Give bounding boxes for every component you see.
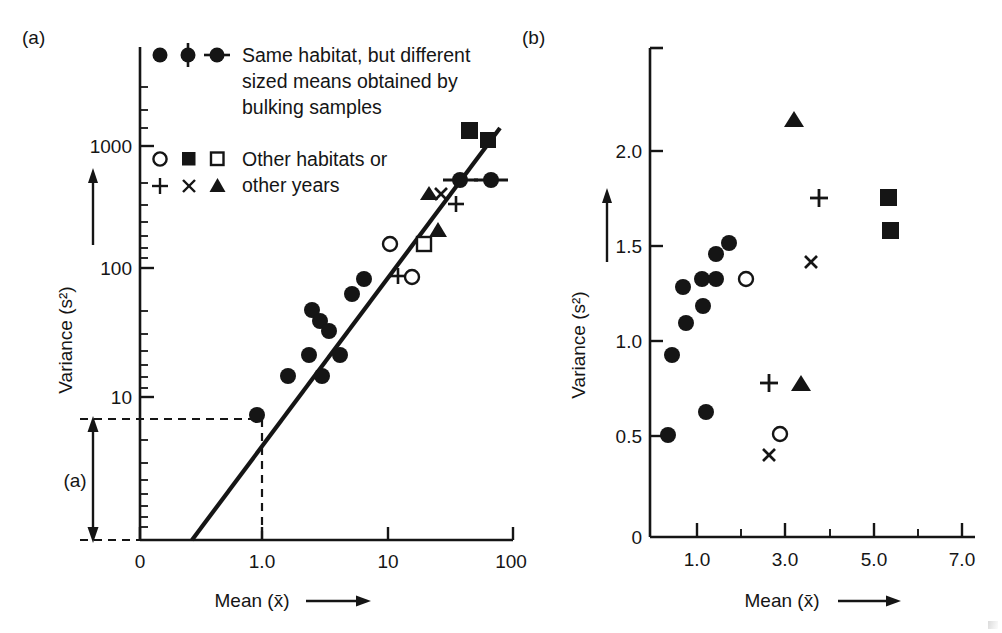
panel-a-y-axis-title: Variance (s²) — [55, 286, 76, 393]
data-point — [383, 237, 397, 251]
panel-b-points-open-circle — [739, 272, 787, 441]
legend-cross-icon — [183, 180, 195, 192]
data-point — [791, 375, 811, 391]
panel-a-xtick-100: 100 — [495, 551, 527, 572]
data-point — [321, 323, 337, 339]
panel-b-points-filled-triangle — [784, 111, 811, 391]
data-point — [344, 286, 360, 302]
panel-b-y-ticks — [650, 151, 663, 436]
figure-container: (a) — [0, 0, 1002, 633]
legend-entry-1-line-1: Same habitat, but different — [242, 44, 471, 66]
legend-plus-icon — [152, 178, 168, 194]
panel-a-regression-line — [192, 128, 500, 540]
data-point — [664, 347, 680, 363]
panel-a-ytick-100: 100 — [100, 258, 132, 279]
panel-a-x-axis-arrow-right-icon — [306, 596, 371, 607]
data-point — [773, 427, 787, 441]
panel-b-ytick-0: 0 — [631, 527, 642, 548]
legend-entry-1-line-3: bulking samples — [242, 96, 382, 118]
data-point — [721, 235, 737, 251]
legend-filled-circle-icon — [153, 48, 168, 63]
legend-open-square-icon — [211, 153, 224, 166]
data-point — [660, 427, 676, 443]
data-point — [417, 237, 431, 251]
data-point — [314, 368, 330, 384]
panel-a-y-axis-arrow-up-icon — [88, 168, 98, 245]
legend-entry-1-line-2: sized means obtained by — [242, 70, 458, 92]
panel-b-ytick-2: 2.0 — [616, 141, 642, 162]
panel-b-y-axis-arrow-up-icon — [602, 188, 612, 262]
panel-b-ytick-0-5: 0.5 — [616, 426, 642, 447]
panel-b-xtick-5: 5.0 — [861, 549, 887, 570]
data-point — [695, 298, 711, 314]
data-point — [760, 374, 778, 392]
data-point — [739, 272, 753, 286]
panel-b-points-filled-circle — [660, 235, 737, 443]
panel-b-xtick-7: 7.0 — [949, 549, 975, 570]
panel-a-points-filled-circle — [249, 172, 508, 423]
panel-b: (b) 2.0 1.5 1.0 0.5 0 — [522, 27, 975, 611]
panel-a-xtick-1: 1.0 — [249, 551, 275, 572]
data-point — [280, 368, 296, 384]
panel-b-label: (b) — [522, 27, 545, 48]
data-point — [763, 449, 775, 461]
data-point — [480, 132, 496, 148]
panel-b-x-axis-arrow-right-icon — [838, 596, 901, 607]
panel-a: (a) — [22, 27, 527, 611]
panel-a-xtick-10: 10 — [377, 551, 398, 572]
data-point — [249, 407, 265, 423]
data-point-horizontal-errorbar — [443, 172, 478, 188]
panel-a-intercept-label: (a) — [63, 470, 86, 491]
panel-b-points-plus — [760, 189, 828, 392]
data-point-horizontal-errorbar — [474, 172, 508, 188]
panel-a-label: (a) — [22, 27, 45, 48]
legend-open-circle-icon — [153, 152, 166, 165]
data-point — [301, 347, 317, 363]
panel-a-xtick-0: 0 — [135, 551, 146, 572]
panel-a-points-open-square — [417, 237, 431, 251]
panel-a-points-filled-square — [461, 122, 496, 148]
panel-b-ytick-1: 1.0 — [616, 331, 642, 352]
data-point — [882, 222, 899, 239]
data-point — [675, 279, 691, 295]
data-point — [448, 196, 464, 212]
panel-b-ytick-1-5: 1.5 — [616, 236, 642, 257]
scan-artifact — [988, 621, 998, 629]
data-point — [461, 122, 478, 139]
data-point — [784, 111, 804, 127]
legend-filled-circle-vertical-errorbar-icon — [181, 43, 196, 67]
figure-svg: (a) — [0, 0, 1002, 633]
legend-filled-triangle-icon — [210, 178, 226, 192]
data-point — [332, 347, 348, 363]
data-point — [810, 189, 828, 207]
data-point — [678, 315, 694, 331]
panel-b-xtick-1: 1.0 — [684, 549, 710, 570]
panel-b-points-filled-square — [880, 189, 899, 239]
data-point — [880, 189, 897, 206]
panel-b-points-cross — [763, 256, 817, 461]
legend-filled-square-icon — [182, 152, 196, 166]
panel-b-xtick-3: 3.0 — [772, 549, 798, 570]
data-point — [356, 271, 372, 287]
panel-b-x-axis-title: Mean (x̄) — [745, 590, 820, 611]
legend-entry-1: Same habitat, but different sized means … — [153, 43, 471, 118]
panel-a-ytick-10: 10 — [111, 387, 132, 408]
data-point — [429, 222, 447, 237]
data-point — [708, 271, 724, 287]
data-point — [708, 246, 724, 262]
legend-entry-2: Other habitats or other years — [152, 148, 388, 196]
data-point — [405, 270, 419, 284]
data-point — [694, 271, 710, 287]
panel-a-x-axis-title: Mean (x̄) — [215, 590, 290, 611]
legend-entry-2-line-2: other years — [242, 174, 340, 196]
legend-filled-circle-horizontal-errorbar-icon — [204, 48, 230, 63]
legend-entry-2-line-1: Other habitats or — [242, 148, 388, 170]
panel-a-intercept-double-arrow-icon — [88, 416, 99, 543]
panel-b-y-axis-title: Variance (s²) — [568, 291, 589, 398]
panel-a-ytick-1000: 1000 — [90, 136, 132, 157]
data-point — [805, 256, 817, 268]
data-point — [698, 404, 714, 420]
